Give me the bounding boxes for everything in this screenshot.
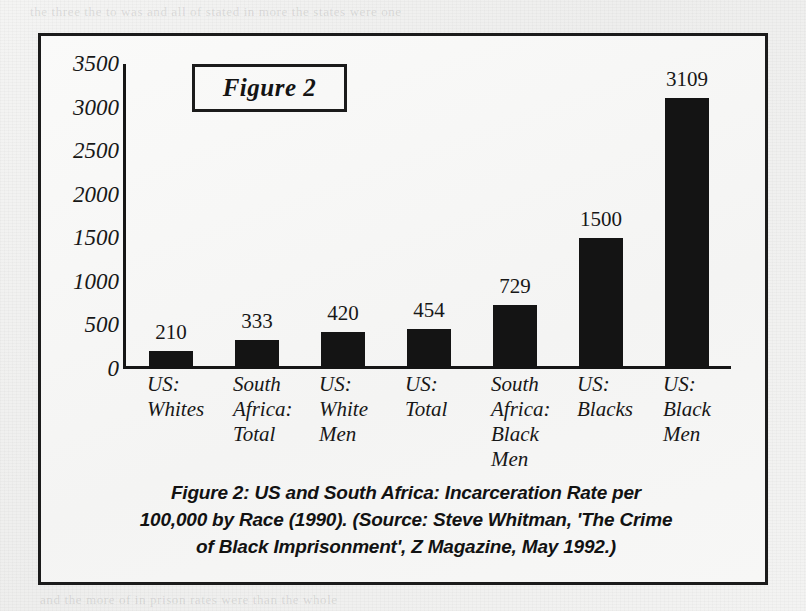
- category-label-line: Total: [233, 422, 313, 447]
- page-bleed-through-top: the three the to was and all of stated i…: [30, 4, 402, 20]
- y-axis-tick-2000: 2000: [41, 182, 119, 208]
- y-axis-tick-500: 500: [41, 312, 119, 338]
- bar-value-label: 729: [485, 274, 545, 299]
- bar-slot: 729: [467, 36, 543, 369]
- category-label-line: South: [233, 372, 313, 397]
- bar-value-label: 333: [227, 309, 287, 334]
- category-label-line: Whites: [147, 397, 227, 422]
- bar-value-label: 210: [141, 320, 201, 345]
- x-axis-category-label: US:BlackMen: [663, 372, 743, 447]
- bar-slot: 420: [295, 36, 371, 369]
- category-label-line: Men: [319, 422, 399, 447]
- chart-plot-area: Figure 2 0500100015002000250030003500 21…: [41, 36, 771, 476]
- category-label-line: Men: [663, 422, 743, 447]
- category-label-line: Black: [491, 422, 571, 447]
- bar-slot: 454: [381, 36, 457, 369]
- bar-slot: 3109: [639, 36, 715, 369]
- y-axis-tick-3500: 3500: [41, 51, 119, 77]
- bar-slot: 1500: [553, 36, 629, 369]
- figure-caption: Figure 2: US and South Africa: Incarcera…: [69, 479, 743, 560]
- bar-series: 21033342045472915003109: [123, 36, 731, 369]
- x-axis-category-label: US:WhiteMen: [319, 372, 399, 447]
- x-axis-category-label: US:Blacks: [577, 372, 657, 422]
- bar-1[interactable]: [149, 351, 193, 369]
- bar-7[interactable]: [665, 98, 709, 369]
- y-axis-tick-3000: 3000: [41, 95, 119, 121]
- x-axis-category-labels: US:WhitesSouthAfrica:TotalUS:WhiteMenUS:…: [123, 372, 753, 478]
- category-label-line: US:: [663, 372, 743, 397]
- y-axis-tick-0: 0: [41, 356, 119, 382]
- category-label-line: US:: [577, 372, 657, 397]
- figure-caption-line: 100,000 by Race (1990). (Source: Steve W…: [69, 506, 743, 533]
- y-axis-tick-1500: 1500: [41, 225, 119, 251]
- category-label-line: Africa:: [233, 397, 313, 422]
- x-axis-category-label: SouthAfrica:BlackMen: [491, 372, 571, 472]
- y-axis-tick-2500: 2500: [41, 138, 119, 164]
- category-label-line: White: [319, 397, 399, 422]
- bar-slot: 333: [209, 36, 285, 369]
- bar-slot: 210: [123, 36, 199, 369]
- x-axis-category-label: SouthAfrica:Total: [233, 372, 313, 447]
- category-label-line: US:: [319, 372, 399, 397]
- bar-value-label: 420: [313, 301, 373, 326]
- bar-value-label: 3109: [657, 67, 717, 92]
- bar-6[interactable]: [579, 238, 623, 369]
- category-label-line: US:: [147, 372, 227, 397]
- category-label-line: Men: [491, 447, 571, 472]
- figure-caption-line: Figure 2: US and South Africa: Incarcera…: [69, 479, 743, 506]
- y-axis-tick-labels: 0500100015002000250030003500: [41, 36, 119, 376]
- figure-caption-line: of Black Imprisonment', Z Magazine, May …: [69, 533, 743, 560]
- category-label-line: Africa:: [491, 397, 571, 422]
- bar-value-label: 454: [399, 298, 459, 323]
- bar-4[interactable]: [407, 329, 451, 369]
- category-label-line: US:: [405, 372, 485, 397]
- bar-5[interactable]: [493, 305, 537, 369]
- bar-3[interactable]: [321, 332, 365, 369]
- category-label-line: Total: [405, 397, 485, 422]
- page-bleed-through-bottom: and the more of in prison rates were tha…: [40, 592, 338, 608]
- y-axis-tick-1000: 1000: [41, 269, 119, 295]
- bar-2[interactable]: [235, 340, 279, 369]
- figure-frame: Figure 2 0500100015002000250030003500 21…: [38, 33, 768, 585]
- x-axis-category-label: US:Whites: [147, 372, 227, 422]
- category-label-line: Black: [663, 397, 743, 422]
- category-label-line: South: [491, 372, 571, 397]
- bar-value-label: 1500: [571, 207, 631, 232]
- x-axis-category-label: US:Total: [405, 372, 485, 422]
- category-label-line: Blacks: [577, 397, 657, 422]
